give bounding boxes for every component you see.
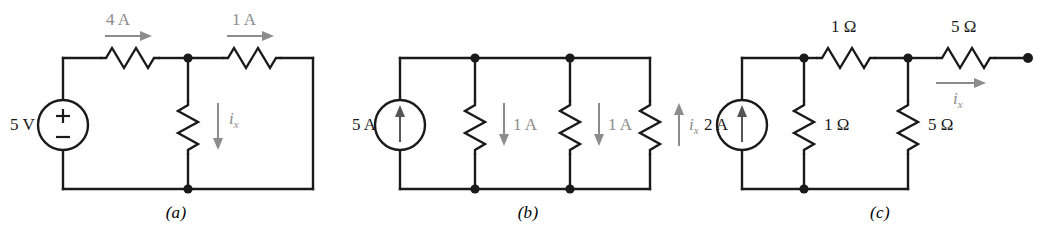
top-1ohm-label: 1 Ω bbox=[831, 18, 856, 35]
current-source-label: 2 A bbox=[704, 116, 728, 133]
voltage-source-label: 5 V bbox=[10, 116, 35, 133]
top-1ohm-resistor bbox=[816, 48, 876, 68]
arrow-1a-left-head bbox=[499, 134, 509, 146]
right-vertical-resistor bbox=[640, 100, 660, 155]
caption-b: (b) bbox=[352, 203, 704, 223]
current-1a-left-label: 1 A bbox=[513, 116, 537, 133]
caption-a: (a) bbox=[0, 203, 352, 223]
node-dot-bottom bbox=[799, 184, 808, 193]
current-source-label: 5 A bbox=[352, 116, 376, 133]
node-dot-bottom bbox=[183, 184, 192, 193]
circuit-panel-c: 2 A 1 Ω 5 Ω 1 Ω 5 Ω ix (c) bbox=[704, 0, 1056, 248]
arrow-4a-head bbox=[140, 31, 152, 41]
node-dot-top bbox=[183, 53, 192, 62]
current-ix-subscript: x bbox=[694, 124, 699, 136]
middle-vertical-resistor bbox=[560, 100, 580, 155]
node-dot-bottom-left bbox=[470, 184, 479, 193]
current-ix-subscript: x bbox=[234, 118, 239, 130]
arrow-1a-right-head bbox=[594, 134, 604, 146]
vertical-5ohm-resistor bbox=[898, 100, 918, 155]
circuit-b-schematic bbox=[352, 0, 704, 215]
current-1a-label: 1 A bbox=[232, 11, 256, 28]
node-dot-top-right bbox=[565, 53, 574, 62]
top-5ohm-resistor bbox=[936, 48, 996, 68]
arrow-ix-head bbox=[213, 138, 223, 150]
arrow-ix-head bbox=[674, 103, 684, 115]
top-right-resistor bbox=[222, 48, 282, 68]
node-dot-top-left bbox=[470, 53, 479, 62]
circuit-c-schematic bbox=[704, 0, 1056, 215]
node-dot-bottom-right bbox=[565, 184, 574, 193]
arrow-ix-head bbox=[974, 78, 986, 88]
current-ix-label: ix bbox=[953, 90, 963, 110]
vertical-1ohm-label: 1 Ω bbox=[824, 116, 849, 133]
node-dot-top-right bbox=[903, 53, 912, 62]
circuit-panel-a: 5 V 4 A 1 A ix (a) bbox=[0, 0, 352, 248]
circuit-a-schematic bbox=[0, 0, 352, 215]
current-4a-label: 4 A bbox=[106, 11, 130, 28]
vertical-5ohm-label: 5 Ω bbox=[928, 116, 953, 133]
current-ix-label: ix bbox=[689, 116, 699, 136]
top-left-resistor bbox=[100, 48, 160, 68]
top-5ohm-label: 5 Ω bbox=[951, 18, 976, 35]
arrow-1a-head bbox=[262, 31, 274, 41]
left-vertical-resistor bbox=[465, 100, 485, 155]
middle-vertical-resistor bbox=[178, 100, 198, 155]
voltage-source-symbol bbox=[38, 100, 88, 150]
current-ix-label: ix bbox=[229, 110, 239, 130]
circuit-figure: 5 V 4 A 1 A ix (a) bbox=[0, 0, 1056, 248]
caption-c: (c) bbox=[704, 203, 1056, 223]
open-terminal-dot bbox=[1023, 53, 1033, 63]
vertical-1ohm-resistor bbox=[794, 100, 814, 155]
current-1a-right-label: 1 A bbox=[608, 116, 632, 133]
circuit-panel-b: 5 A 1 A 1 A ix (b) bbox=[352, 0, 704, 248]
node-dot-top-left bbox=[799, 53, 808, 62]
current-ix-subscript: x bbox=[958, 98, 963, 110]
